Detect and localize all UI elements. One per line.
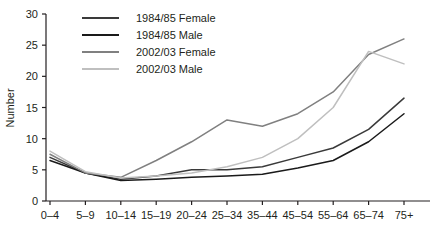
x-axis-tick-label: 0–4 <box>41 209 59 221</box>
x-axis-tick-label: 15–19 <box>141 209 172 221</box>
x-axis-tick-label: 75+ <box>395 209 414 221</box>
x-axis-tick-label: 65–74 <box>353 209 384 221</box>
legend-label-3: 2002/03 Male <box>136 63 203 75</box>
y-axis-tick-label: 20 <box>26 70 38 82</box>
legend-label-1: 1984/85 Male <box>136 29 203 41</box>
y-axis-tick-label: 10 <box>26 133 38 145</box>
y-axis-title: Number <box>4 88 16 127</box>
x-axis-tick-label: 25–34 <box>212 209 243 221</box>
x-axis-tick-label: 5–9 <box>76 209 94 221</box>
y-axis-tick-label: 30 <box>26 8 38 20</box>
series-group <box>50 39 404 181</box>
x-axis-tick-label: 20–24 <box>176 209 207 221</box>
legend-label-2: 2002/03 Female <box>136 46 216 58</box>
x-axis-tick-label: 45–54 <box>283 209 314 221</box>
x-axis-tick-label: 55–64 <box>318 209 349 221</box>
y-axis-tick-label: 0 <box>32 195 38 207</box>
series-line-3 <box>50 51 404 178</box>
x-axis-tick-label: 35–44 <box>247 209 278 221</box>
axes-group: 051015202530Number0–45–910–1415–1920–242… <box>4 8 430 221</box>
x-axis-tick-label: 10–14 <box>106 209 137 221</box>
chart-canvas: 051015202530Number0–45–910–1415–1920–242… <box>0 0 436 234</box>
line-chart: 051015202530Number0–45–910–1415–1920–242… <box>0 0 436 234</box>
legend-label-0: 1984/85 Female <box>136 12 216 24</box>
y-axis-tick-label: 25 <box>26 39 38 51</box>
legend-group: 1984/85 Female1984/85 Male2002/03 Female… <box>82 12 216 75</box>
y-axis-tick-label: 5 <box>32 164 38 176</box>
y-axis-tick-label: 15 <box>26 102 38 114</box>
series-line-2 <box>50 39 404 177</box>
